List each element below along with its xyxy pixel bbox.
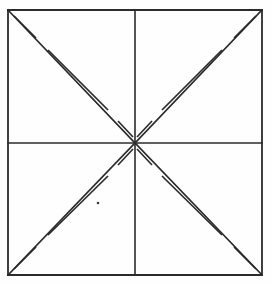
figure-canvas — [0, 0, 272, 284]
square-diagonals-figure — [0, 0, 272, 284]
artifacts-group — [97, 202, 100, 205]
speck-dot — [97, 202, 100, 205]
